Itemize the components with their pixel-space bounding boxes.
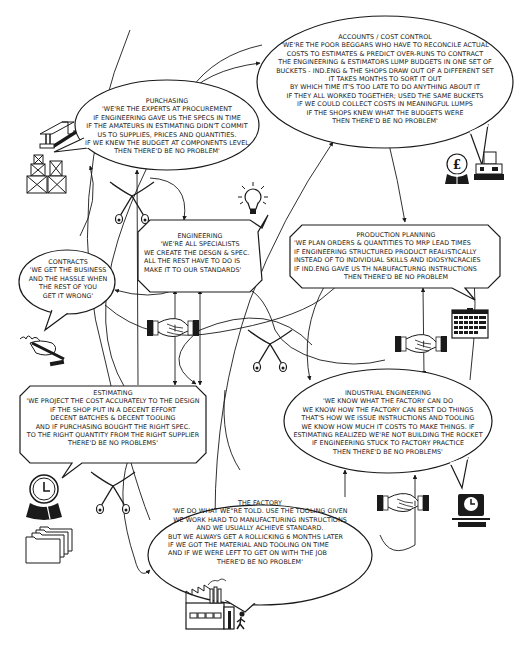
production-planning-line: IF IND.ENG GAVE US TH NABUFACTURNG INSTR… [294,265,498,273]
estimating-text: ESTIMATING 'WE PROJECT THE COST ACCURATE… [20,389,206,448]
svg-text:£: £ [453,158,461,172]
engineering-line: ALL THE REST HAVE TO DO IS [142,257,258,265]
estimating-line: IF THE SHOP PUT IN A DECENT EFFORT [20,406,206,414]
handshake-icon [147,319,199,337]
factory-line: BUT WE ALWAYS GET A ROLLICKING 6 MONTHS … [162,533,358,541]
production-planning-line: INSTEAD OF TO INDIVIDUAL SKILLS AND IDIO… [294,256,498,264]
purchasing-text: PURCHASING 'WE'RE THE EXPERTS AT PROCURE… [80,97,254,156]
signing-hand-icon [20,336,64,366]
engineering-text: ENGINEERING 'WE'RE ALL SPECIALISTS WE CR… [142,232,258,274]
light-bulb-icon [238,182,268,214]
purchasing-line: IF WE KNEW THE BUDGET AT COMPONENTS LEVE… [80,139,254,147]
accounts-line: IF WE COULD COLLECT COSTS IN MEANINGFUL … [262,100,508,108]
factory-line: 'WE DO WHAT WE"RE TOLD. USE THE TOOLING … [162,507,358,515]
estimating-line: AND IF PURCHASING BOUGHT THE RIGHT SPEC. [20,423,206,431]
contracts-title: CONTRACTS [24,258,112,266]
purchasing-line: US TO SUPPLIES, PRICES AND QUANTITIES. [80,131,254,139]
crossed-swords-icon [248,330,292,372]
accounts-line: BUCKETS - IND.ENG & THE SHOPS DRAW OUT O… [262,67,508,75]
handshake-icon [377,494,429,512]
accounts-line: 'WE'RE THE POOR BEGGARS WHO HAVE TO RECO… [262,41,508,49]
crossed-swords-icon [91,472,135,514]
file-folders-icon [26,527,72,563]
industrial-engineering-line: 'WE KNOW WHAT THE FACTORY CAN DO [290,397,486,405]
engineering-line: 'WE'RE ALL SPECIALISTS [142,240,258,248]
industrial-engineering-title: INDUSTRIAL ENGINEERING [290,389,486,397]
accounts-line: THEN THERE'D BE NO PROBLEM' [262,117,508,125]
purchasing-title: PURCHASING [80,97,254,105]
industrial-engineering-line: WE KNOW HOW MUCH IT COSTS TO MAKE THINGS… [290,423,486,431]
industrial-engineering-line: ESTIMATING REALIZED WE'RE NOT BUILDING T… [290,431,486,439]
engineering-line: WE CREATE THE DESGN & SPEC. [142,249,258,257]
purchasing-line: IF ENGINEERING GAVE US THE SPECS IN TIME [80,114,254,122]
accounts-line: COSTS TO ESTIMATES & PREDICT OVER-RUNS T… [262,50,508,58]
industrial-engineering-line: THEN THERE'D BE NO PROBLEMS' [290,448,486,456]
purchasing-line: THEN THERE'D BE NO PROBLEM' [80,147,254,155]
estimating-line: DECENT BATCHES & DECENT TOOLING [20,414,206,422]
industrial-engineering-line: IF ENGINEERING STUCK TO FACTORY PRACTICE [290,439,486,447]
production-planning-line: IF ENGINEERING STRUCTURED PRODUCT REALIS… [294,248,498,256]
pound-globe-icon: £ [445,154,469,184]
factory-title: THE FACTORY [162,499,358,507]
estimating-title: ESTIMATING [20,389,206,397]
industrial-engineering-line: WE KNOW HOW THE FACTORY CAN BEST DO THIN… [290,406,486,414]
stacked-crates-icon [27,155,66,193]
accounts-line: IF THE SHOPS KNEW WHAT THE BUDGETS WERE [262,109,508,117]
factory-text: THE FACTORY 'WE DO WHAT WE"RE TOLD. USE … [162,499,358,566]
purchasing-line: 'WE'RE THE EXPERTS AT PROCUREMENT [80,105,254,113]
factory-line: WE WORK HARD TO MANUFACTURING INSTRUCTIO… [162,516,358,524]
production-planning-title: PRODUCTION PLANNING [294,231,498,239]
contracts-line: THE REST OF YOU [24,283,112,291]
accounts-line: IT TAKES MONTHS TO SORT IT OUT [262,75,508,83]
factory-line: IF WE GOT THE MATERIAL AND TOOLING ON TI… [162,541,358,549]
factory-line: THERE'D BE NO PROBLEM' [162,558,358,566]
accounts-title: ACCOUNTS / COST CONTROL [262,33,508,41]
production-planning-text: PRODUCTION PLANNING 'WE PLAN ORDERS & QU… [294,231,498,281]
engineering-title: ENGINEERING [142,232,258,240]
factory-line: AND WE USUALLY ACHIEVE STANDARD. [162,524,358,532]
accounts-text: ACCOUNTS / COST CONTROL 'WE'RE THE POOR … [262,33,508,125]
crossed-swords-icon [110,182,154,224]
industrial-engineering-text: INDUSTRIAL ENGINEERING 'WE KNOW WHAT THE… [290,389,486,456]
estimating-line: THERE'D BE NO PROBLEMS' [20,439,206,447]
contracts-line: AND THE HASSLE WHEN [24,275,112,283]
accounts-line: IF THEY ALL WORKED TOGETHER; USED THE SA… [262,92,508,100]
accounts-line: THE ENGINEERING & ESTIMATORS LUMP BUDGET… [262,58,508,66]
calendar-icon [452,308,488,338]
industrial-engineering-line: THAT'S HOW WE ISSUE INSTRUCTIONS AND TOO… [290,414,486,422]
handshake-icon [395,335,447,353]
estimating-line: 'WE PROJECT THE COST ACCURATELY TO THE D… [20,397,206,405]
purchasing-line: IF THE AMATEURS IN ESTIMATING DIDN'T COM… [80,122,254,130]
contracts-line: GET IT WRONG' [24,292,112,300]
production-planning-line: 'WE PLAN ORDERS & QUANTITIES TO MRP LEAD… [294,239,498,247]
accounts-line: BY WHICH TIME IT'S TOO LATE TO DO ANYTHI… [262,83,508,91]
estimating-line: TO THE RIGHT QUANTITY FROM THE RIGHT SUP… [20,431,206,439]
contracts-line: 'WE GET THE BUSINESS [24,266,112,274]
factory-line: AND IF WE WERE LEFT TO GET ON WITH THE J… [162,549,358,557]
time-clock-icon [452,494,490,527]
contracts-text: CONTRACTS 'WE GET THE BUSINESS AND THE H… [24,258,112,300]
clock-globe-icon [26,475,62,520]
engineering-line: MAKE IT TO OUR STANDARDS' [142,266,258,274]
production-planning-line: THEN THERE'D BE NO PROBLEM [294,273,498,281]
